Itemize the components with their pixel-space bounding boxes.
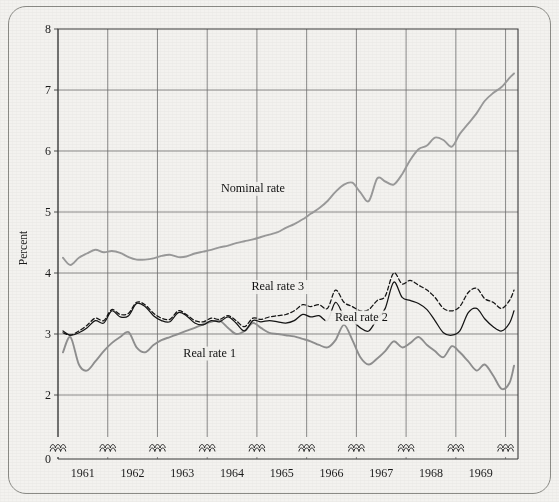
axis-break-mark bbox=[99, 437, 117, 457]
real-rate-3-label: Real rate 3 bbox=[251, 279, 304, 293]
x-tick-1969: 1969 bbox=[469, 466, 493, 480]
axis-break-mark bbox=[497, 437, 515, 457]
axis-break-mark bbox=[347, 437, 365, 457]
data-series-group bbox=[63, 74, 514, 390]
y-tick-0: 0 bbox=[45, 452, 51, 466]
axis-break-mark bbox=[198, 437, 216, 457]
series-line-nominal-rate bbox=[63, 74, 514, 266]
y-tick-7: 7 bbox=[45, 83, 51, 97]
y-tick-8: 8 bbox=[45, 22, 51, 36]
vertical-gridlines bbox=[58, 29, 506, 459]
axis-break-mark bbox=[248, 437, 266, 457]
axis-break-mark bbox=[298, 437, 316, 457]
axis-break-mark bbox=[447, 437, 465, 457]
axis-break-marks bbox=[49, 437, 515, 457]
interest-rate-chart: 87654320 1961196219631964196519661967196… bbox=[0, 0, 559, 502]
x-tick-labels: 196119621963196419651966196719681969 bbox=[71, 466, 493, 480]
y-tick-5: 5 bbox=[45, 205, 51, 219]
nominal-rate-label-group: Nominal rate bbox=[214, 181, 292, 196]
axis-break-mark bbox=[49, 437, 67, 457]
y-tick-6: 6 bbox=[45, 144, 51, 158]
y-tick-3: 3 bbox=[45, 327, 51, 341]
x-tick-1963: 1963 bbox=[170, 466, 194, 480]
x-tick-1962: 1962 bbox=[121, 466, 145, 480]
x-tick-1965: 1965 bbox=[270, 466, 294, 480]
real-rate-1-label: Real rate 1 bbox=[183, 346, 236, 360]
y-tick-4: 4 bbox=[45, 266, 51, 280]
x-tick-1967: 1967 bbox=[369, 466, 393, 480]
y-tick-labels: 87654320 bbox=[45, 22, 58, 466]
x-tick-1961: 1961 bbox=[71, 466, 95, 480]
y-axis-title: Percent bbox=[17, 230, 29, 265]
plot-border bbox=[58, 29, 518, 459]
axis-break-mark bbox=[397, 437, 415, 457]
real-rate-1-label-group: Real rate 1 bbox=[174, 346, 246, 361]
real-rate-2-label-group: Real rate 2 bbox=[325, 310, 397, 325]
x-tick-1968: 1968 bbox=[419, 466, 443, 480]
real-rate-3-label-group: Real rate 3 bbox=[242, 279, 314, 294]
x-tick-1966: 1966 bbox=[320, 466, 344, 480]
real-rate-2-label: Real rate 2 bbox=[335, 310, 388, 324]
axis-break-mark bbox=[148, 437, 166, 457]
figure-page: 87654320 1961196219631964196519661967196… bbox=[0, 0, 559, 502]
x-tick-1964: 1964 bbox=[220, 466, 244, 480]
y-tick-2: 2 bbox=[45, 388, 51, 402]
plot-frame bbox=[58, 29, 518, 459]
nominal-rate-label: Nominal rate bbox=[221, 181, 285, 195]
series-line-real-rate-1 bbox=[63, 320, 514, 389]
